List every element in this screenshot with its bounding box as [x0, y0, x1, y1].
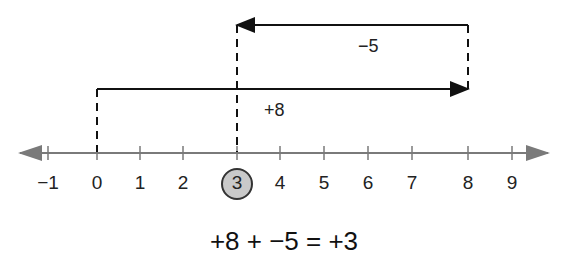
number-line-axis: [20, 146, 548, 160]
tick-label: 8: [463, 172, 474, 194]
plus-eight-label: +8: [264, 100, 285, 121]
equation: +8 + −5 = +3: [0, 226, 568, 257]
tick-label: 5: [319, 172, 330, 194]
tick-label: 6: [363, 172, 374, 194]
tick-label: 4: [275, 172, 286, 194]
tick-label: 0: [92, 172, 103, 194]
tick-label: 9: [507, 172, 518, 194]
tick-label: 2: [178, 172, 189, 194]
tick-label-highlighted: 3: [232, 172, 243, 194]
tick-label: 7: [407, 172, 418, 194]
minus-five-label: −5: [358, 36, 379, 57]
tick-label: −1: [37, 172, 59, 194]
tick-label: 1: [135, 172, 146, 194]
